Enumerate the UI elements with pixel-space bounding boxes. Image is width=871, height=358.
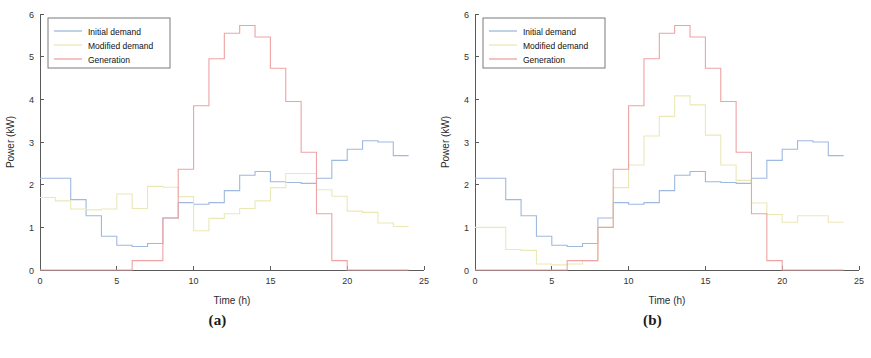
y-tick-label: 1	[29, 223, 34, 233]
y-tick-label: 1	[464, 223, 469, 233]
panel-a-caption: (a)	[0, 312, 435, 329]
x-tick-label: 15	[265, 276, 275, 286]
x-tick-label: 20	[777, 276, 787, 286]
y-tick-label: 0	[464, 266, 469, 276]
x-tick-label: 5	[549, 276, 554, 286]
y-tick-label: 4	[29, 95, 34, 105]
x-tick-label: 10	[189, 276, 199, 286]
panel-b-plot: 05101520250123456Time (h)Power (kW)Initi…	[435, 0, 870, 312]
y-tick-label: 5	[464, 52, 469, 62]
y-tick-label: 5	[29, 52, 34, 62]
y-axis-title: Power (kW)	[5, 116, 16, 168]
series-line-initial-demand	[40, 141, 409, 247]
x-axis-title: Time (h)	[214, 295, 251, 306]
legend-label-generation: Generation	[88, 55, 130, 65]
figure-root: 05101520250123456Time (h)Power (kW)Initi…	[0, 0, 871, 358]
x-tick-label: 15	[700, 276, 710, 286]
legend-label-initial-demand: Initial demand	[88, 27, 141, 37]
legend-label-generation: Generation	[523, 55, 565, 65]
x-tick-label: 10	[624, 276, 634, 286]
y-tick-label: 2	[29, 180, 34, 190]
x-tick-label: 0	[472, 276, 477, 286]
panel-a-plot: 05101520250123456Time (h)Power (kW)Initi…	[0, 0, 435, 312]
y-axis-title: Power (kW)	[440, 116, 451, 168]
x-tick-label: 20	[342, 276, 352, 286]
legend-label-modified-demand: Modified demand	[88, 41, 153, 51]
x-tick-label: 25	[854, 276, 864, 286]
panel-b: 05101520250123456Time (h)Power (kW)Initi…	[435, 0, 870, 358]
chart-a: 05101520250123456Time (h)Power (kW)Initi…	[0, 0, 435, 312]
legend-label-modified-demand: Modified demand	[523, 41, 588, 51]
x-axis-title: Time (h)	[649, 295, 686, 306]
series-line-modified-demand	[475, 96, 844, 265]
chart-b: 05101520250123456Time (h)Power (kW)Initi…	[435, 0, 870, 312]
y-tick-label: 2	[464, 180, 469, 190]
y-tick-label: 3	[464, 138, 469, 148]
y-tick-label: 6	[464, 10, 469, 20]
panel-a: 05101520250123456Time (h)Power (kW)Initi…	[0, 0, 435, 358]
legend-label-initial-demand: Initial demand	[523, 27, 576, 37]
y-tick-label: 4	[464, 95, 469, 105]
y-tick-label: 0	[29, 266, 34, 276]
x-tick-label: 5	[114, 276, 119, 286]
series-line-initial-demand	[475, 141, 844, 247]
panel-b-caption: (b)	[435, 312, 870, 329]
y-tick-label: 6	[29, 10, 34, 20]
y-tick-label: 3	[29, 138, 34, 148]
x-tick-label: 0	[37, 276, 42, 286]
x-tick-label: 25	[419, 276, 429, 286]
